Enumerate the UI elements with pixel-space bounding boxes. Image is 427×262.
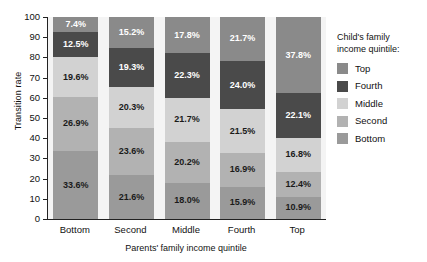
bar-segment-bottom: 18.0% [165,183,210,219]
data-label: 21.6% [119,193,145,202]
stacked-bar-chart: Transition rate 0102030405060708090100 3… [0,0,427,262]
legend-entries: TopFourthMiddleSecondBottom [337,63,427,144]
y-tick-mark [43,57,48,58]
y-tick-label: 50 [4,113,40,123]
bar-segment-top: 21.7% [220,17,265,61]
x-tick-label-fourth: Fourth [212,224,272,235]
x-tick-label-second: Second [100,224,160,235]
bar-segment-fourth: 22.3% [165,53,210,98]
bar-second: 21.6%23.6%20.3%19.3%15.2% [109,17,154,219]
data-label: 10.9% [285,203,311,212]
legend-item-bottom: Bottom [337,133,427,144]
y-tick-label: 100 [4,12,40,22]
y-tick-mark [43,179,48,180]
legend-item-second: Second [337,116,427,127]
legend: Child's family income quintile: TopFourt… [337,32,427,151]
bar-fourth: 15.9%16.9%21.5%24.0%21.7% [220,17,265,219]
legend-item-fourth: Fourth [337,81,427,92]
y-tick-mark [43,199,48,200]
bar-segment-second: 12.4% [276,172,321,197]
bar-segment-second: 26.9% [53,97,98,151]
y-tick-label: 70 [4,73,40,83]
data-label: 20.3% [119,103,145,112]
bar-segment-fourth: 24.0% [220,61,265,109]
data-label: 33.6% [63,181,89,190]
legend-title: Child's family income quintile: [337,32,427,55]
data-label: 17.8% [174,31,200,40]
bar-segment-fourth: 19.3% [109,48,154,87]
bar-segment-fourth: 22.1% [276,93,321,138]
bar-segment-bottom: 10.9% [276,197,321,219]
y-tick-mark [43,158,48,159]
legend-swatch-icon [337,98,348,109]
data-label: 18.0% [174,196,200,205]
bar-segment-second: 20.2% [165,142,210,183]
bar-top: 10.9%12.4%16.8%22.1%37.8% [276,17,321,219]
bar-segment-top: 37.8% [276,17,321,93]
bar-segment-middle: 21.7% [165,98,210,142]
data-label: 19.3% [119,63,145,72]
y-tick-label: 0 [4,214,40,224]
bar-segment-bottom: 33.6% [53,151,98,219]
bar-segment-middle: 19.6% [53,57,98,97]
data-label: 12.5% [63,40,89,49]
y-tick-mark [43,17,48,18]
bar-segment-bottom: 15.9% [220,187,265,219]
y-tick-mark [43,118,48,119]
data-label: 20.2% [174,158,200,167]
x-tick-label-top: Top [267,224,327,235]
y-tick-mark [43,219,48,220]
x-axis-title: Parents' family income quintile [47,243,325,253]
y-tick-mark [43,98,48,99]
data-label: 16.9% [230,165,256,174]
bar-segment-middle: 20.3% [109,87,154,128]
y-tick-label: 60 [4,93,40,103]
legend-swatch-icon [337,63,348,74]
bar-segment-second: 16.9% [220,153,265,187]
data-label: 7.4% [66,20,87,29]
bar-segment-top: 15.2% [109,17,154,48]
data-label: 19.6% [63,73,89,82]
y-tick-label: 40 [4,133,40,143]
bar-segment-top: 7.4% [53,17,98,32]
legend-item-top: Top [337,63,427,74]
y-tick-label: 80 [4,52,40,62]
legend-label: Top [355,64,370,74]
legend-label: Second [355,116,387,126]
bar-segment-bottom: 21.6% [109,175,154,219]
y-tick-label: 30 [4,153,40,163]
legend-label: Bottom [355,134,385,144]
y-tick-mark [43,78,48,79]
data-label: 26.9% [63,119,89,128]
y-tick-label: 90 [4,32,40,42]
legend-swatch-icon [337,81,348,92]
y-tick-mark [43,138,48,139]
data-label: 21.7% [174,115,200,124]
legend-label: Middle [355,99,383,109]
data-label: 15.2% [119,28,145,37]
data-label: 23.6% [119,147,145,156]
legend-label: Fourth [355,81,382,91]
data-label: 16.8% [285,150,311,159]
bar-segment-fourth: 12.5% [53,32,98,57]
data-label: 21.7% [230,34,256,43]
data-label: 22.3% [174,71,200,80]
data-label: 37.8% [285,51,311,60]
data-label: 12.4% [285,180,311,189]
bar-bottom: 33.6%26.9%19.6%12.5%7.4% [53,17,98,219]
y-tick-mark [43,37,48,38]
data-label: 24.0% [230,81,256,90]
plot-area: 0102030405060708090100 33.6%26.9%19.6%12… [47,17,326,220]
legend-title-line-1: Child's family [337,32,427,44]
legend-item-middle: Middle [337,98,427,109]
data-label: 21.5% [230,127,256,136]
data-label: 15.9% [230,198,256,207]
bar-middle: 18.0%20.2%21.7%22.3%17.8% [165,17,210,219]
bar-segment-top: 17.8% [165,17,210,53]
bar-segment-middle: 21.5% [220,109,265,152]
data-label: 22.1% [285,111,311,120]
x-tick-label-bottom: Bottom [45,224,105,235]
y-tick-label: 10 [4,194,40,204]
bar-segment-middle: 16.8% [276,138,321,172]
y-tick-label: 20 [4,174,40,184]
